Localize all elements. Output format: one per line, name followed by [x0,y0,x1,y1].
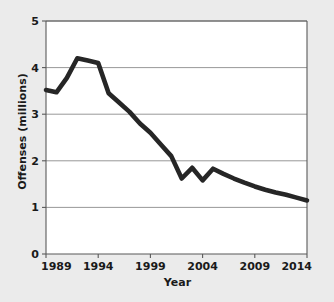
x-tick-label: 2009 [239,260,270,273]
chart-figure: 012345 198919941999200420092014 Offenses… [0,0,334,302]
plot-area-background [46,21,307,254]
x-tick-labels: 198919941999200420092014 [41,260,312,273]
x-tick-label: 1994 [83,260,114,273]
y-tick-labels: 012345 [31,15,39,261]
x-axis-title: Year [45,276,310,289]
y-tick-label: 2 [31,155,39,168]
x-tick-label: 2004 [187,260,218,273]
y-tick-label: 3 [31,108,39,121]
line-chart-plot: 012345 198919941999200420092014 [0,0,334,302]
y-tick-label: 5 [31,15,39,28]
y-tick-label: 1 [31,201,39,214]
x-tick-label: 1999 [135,260,166,273]
x-tick-label: 1989 [41,260,72,273]
y-tick-label: 0 [31,248,39,261]
y-tick-label: 4 [31,62,39,75]
x-tick-label: 2014 [281,260,312,273]
